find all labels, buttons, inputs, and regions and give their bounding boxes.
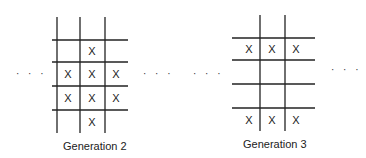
generations-diagram: XXXXXXXXXXXXXX · · ·· · ·· · ·· · · Gene…: [0, 0, 366, 158]
cell-mark-x: X: [265, 43, 279, 55]
cell-mark-x: X: [289, 114, 303, 126]
cell-mark-x: X: [109, 68, 123, 80]
cell-mark-x: X: [85, 68, 99, 80]
cell-mark-x: X: [85, 92, 99, 104]
grid-lines: [0, 0, 366, 158]
ellipsis-dots: · · ·: [143, 69, 174, 79]
cell-mark-x: X: [61, 68, 75, 80]
cell-mark-x: X: [61, 92, 75, 104]
generation-3-label: Generation 3: [243, 138, 307, 150]
ellipsis-dots: · · ·: [331, 65, 362, 75]
cell-mark-x: X: [265, 114, 279, 126]
cell-mark-x: X: [109, 92, 123, 104]
generation-2-label: Generation 2: [63, 140, 127, 152]
cell-mark-x: X: [242, 43, 256, 55]
ellipsis-dots: · · ·: [193, 69, 224, 79]
cell-mark-x: X: [85, 45, 99, 57]
cell-mark-x: X: [289, 43, 303, 55]
cell-mark-x: X: [242, 114, 256, 126]
cell-mark-x: X: [85, 116, 99, 128]
ellipsis-dots: · · ·: [16, 69, 47, 79]
